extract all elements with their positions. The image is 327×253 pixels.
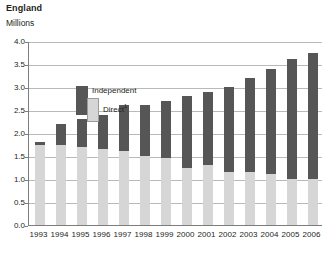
bar-segment-direct	[56, 145, 66, 226]
bar-column	[224, 87, 234, 225]
x-axis-line	[28, 225, 322, 226]
legend-swatch-direct	[87, 98, 99, 122]
x-tick-label: 1998	[133, 230, 154, 239]
y-tick-label: 0.5	[3, 199, 25, 207]
bar-column	[35, 142, 45, 225]
bar-segment-independent	[161, 101, 171, 159]
legend-label-direct: Direct1	[103, 104, 127, 114]
y-tick-label: 3.5	[3, 61, 25, 69]
x-tick-label: 2003	[238, 230, 259, 239]
bar-segment-direct	[224, 172, 234, 225]
page-title: England	[6, 3, 42, 13]
y-tick-label: 4.0	[3, 38, 25, 46]
bar-segment-independent	[56, 124, 66, 145]
bar-segment-direct	[77, 147, 87, 225]
y-tick-label: 0.0	[3, 222, 25, 230]
bar-segment-independent	[287, 59, 297, 179]
legend-label-direct-text: Direct	[103, 105, 124, 114]
x-tick-label: 1994	[49, 230, 70, 239]
bar-segment-direct	[35, 145, 45, 226]
bar-column	[161, 101, 171, 225]
bar-column	[77, 119, 87, 225]
bar-segment-independent	[245, 78, 255, 172]
bar-segment-independent	[98, 115, 108, 150]
bar-segment-independent	[140, 105, 150, 156]
x-tick-label: 1997	[112, 230, 133, 239]
x-tick-label: 1999	[154, 230, 175, 239]
bar-column	[140, 105, 150, 225]
bar-column	[203, 92, 213, 225]
legend-label-independent: Independent	[92, 86, 137, 95]
bar-segment-direct	[287, 179, 297, 225]
bar-segment-direct	[182, 168, 192, 226]
bar-column	[308, 53, 318, 226]
bar-segment-independent	[182, 96, 192, 167]
x-tick-label: 2006	[301, 230, 322, 239]
y-tick-label: 3.0	[3, 84, 25, 92]
bar-series-group	[29, 42, 322, 225]
bar-segment-direct	[119, 151, 129, 225]
y-axis-labels: 0.00.51.01.52.02.53.03.54.0	[0, 42, 25, 226]
bar-segment-direct	[203, 165, 213, 225]
bar-column	[266, 69, 276, 225]
legend-footnote-marker: 1	[124, 103, 127, 109]
x-tick-label: 1996	[91, 230, 112, 239]
bar-segment-independent	[224, 87, 234, 172]
bar-column	[245, 78, 255, 225]
bar-segment-independent	[77, 119, 87, 147]
bar-segment-direct	[308, 179, 318, 225]
chart-figure: England Millions 0.00.51.01.52.02.53.03.…	[0, 0, 327, 253]
x-tick-label: 1995	[70, 230, 91, 239]
x-tick-label: 1993	[28, 230, 49, 239]
x-tick-label: 2000	[175, 230, 196, 239]
y-tick-label: 1.5	[3, 153, 25, 161]
bar-segment-independent	[203, 92, 213, 166]
bar-column	[182, 96, 192, 225]
bar-segment-direct	[161, 158, 171, 225]
x-tick-label: 2005	[280, 230, 301, 239]
bar-column	[119, 105, 129, 225]
bar-segment-direct	[140, 156, 150, 225]
chart-units-label: Millions	[6, 18, 34, 28]
bar-segment-independent	[308, 53, 318, 180]
y-tick-mark	[25, 226, 28, 227]
bar-segment-direct	[266, 174, 276, 225]
x-tick-label: 2001	[196, 230, 217, 239]
bar-column	[56, 124, 66, 225]
bar-segment-direct	[245, 172, 255, 225]
bar-segment-independent	[266, 69, 276, 175]
x-tick-label: 2004	[259, 230, 280, 239]
y-tick-label: 2.0	[3, 130, 25, 138]
y-tick-label: 1.0	[3, 176, 25, 184]
x-axis-labels: 1993199419951996199719981999200020012002…	[28, 230, 322, 244]
bar-segment-direct	[98, 149, 108, 225]
bar-column	[287, 59, 297, 225]
plot-area: Independent Direct1	[28, 42, 322, 226]
x-tick-label: 2002	[217, 230, 238, 239]
bar-column	[98, 115, 108, 225]
bar-segment-independent	[35, 142, 45, 144]
y-tick-label: 2.5	[3, 107, 25, 115]
